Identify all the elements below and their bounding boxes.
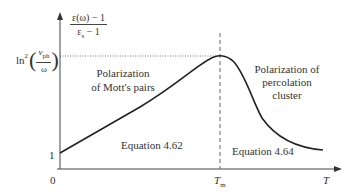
mott-pairs-region-title: Polarization of Mott's pairs: [78, 67, 168, 93]
perc-title-line2: percolation: [232, 76, 342, 88]
origin-label: 0: [50, 174, 56, 186]
perc-title-line3: cluster: [232, 89, 342, 101]
x-axis-label: T: [323, 174, 329, 186]
paren-close: ): [51, 49, 58, 71]
max-level-label: ln2 ( vph ω ): [16, 47, 59, 74]
y-axis-arrow-icon: [57, 12, 63, 20]
vph-fraction: vph ω: [36, 47, 51, 74]
ln-sup: 2: [25, 50, 29, 62]
mott-title-line1: Polarization: [78, 67, 168, 79]
percolation-region-title: Polarization of percolation cluster: [232, 63, 342, 101]
y-axis-label: ε(ω) − 1 εs − 1: [70, 12, 107, 42]
ph-sub: ph: [42, 52, 49, 60]
eps-tail: − 1: [84, 26, 100, 37]
y-axis-label-numerator: ε(ω) − 1: [70, 12, 107, 25]
paren-open: (: [29, 49, 36, 71]
ln-text: ln: [16, 54, 25, 66]
equation-4-62-label: Equation 4.62: [121, 139, 183, 151]
perc-title-line1: Polarization of: [232, 63, 342, 75]
tm-sub: m: [220, 181, 225, 189]
tm-label: Tm: [214, 174, 226, 191]
y-axis-label-denominator: εs − 1: [77, 25, 100, 42]
mott-title-line2: of Mott's pairs: [78, 81, 168, 93]
omega-denominator: ω: [41, 63, 47, 74]
equation-4-64-label: Equation 4.64: [232, 145, 294, 157]
vph-numerator: vph: [36, 47, 51, 63]
y-tick-1: 1: [49, 149, 55, 161]
x-axis-arrow-icon: [334, 166, 342, 172]
